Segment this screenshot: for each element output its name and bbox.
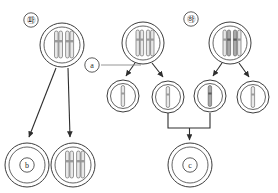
arrow-mid-to-daughter-2 [152,63,163,77]
arrow-left-to-cell2 [68,68,70,137]
cell-bottom-left-2 [51,143,95,187]
cell-division-diagram: ㉺ ㉻ a b c [0,0,278,193]
callout-label-a-text: a [90,61,94,70]
panel-label-right-text: ㉻ [187,14,196,24]
panel-label-right: ㉻ [184,12,198,26]
cell-parent-left [40,23,84,67]
cell-daughter-3 [194,80,226,112]
cell-label-b: b [20,158,34,172]
arrow-right-to-daughter-3 [213,63,222,76]
bracket-path [168,113,210,128]
cell-label-c-text: c [188,161,192,170]
cell-parent-mid [122,22,164,64]
arrow-right-to-daughter-4 [239,63,249,77]
cell-label-c: c [183,158,197,172]
diagram-canvas: ㉺ ㉻ a b c [0,0,278,193]
cell-parent-right [209,22,251,64]
callout-label-a: a [85,58,99,72]
cell-daughter-4 [237,81,269,113]
cell-daughter-2 [152,81,184,113]
arrow-left-to-b [29,68,56,137]
bracket-to-cell-c [168,113,210,140]
cell-label-b-text: b [25,161,29,170]
cell-daughter-1 [107,80,139,112]
panel-label-left-text: ㉺ [27,15,36,25]
panel-label-left: ㉺ [24,13,38,27]
